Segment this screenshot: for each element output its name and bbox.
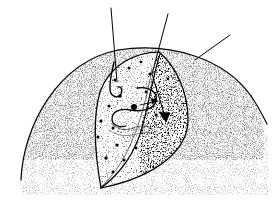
dark-spot	[131, 104, 137, 110]
dark-spot	[104, 156, 107, 159]
dark-spot	[123, 159, 126, 162]
dark-spot	[99, 119, 102, 122]
dark-spot	[128, 67, 131, 70]
dark-spot	[167, 78, 170, 81]
dark-spot	[112, 127, 115, 130]
figure-container: Stippled pen-and-ink anatomical illustra…	[0, 0, 276, 210]
dark-spot	[118, 94, 122, 98]
anatomical-illustration: Stippled pen-and-ink anatomical illustra…	[0, 0, 276, 210]
dark-spot	[135, 147, 138, 150]
dark-spot	[155, 114, 158, 117]
dark-spot	[140, 61, 143, 64]
dark-spot	[145, 91, 148, 94]
dark-spot	[115, 143, 118, 146]
dark-spot	[107, 104, 110, 107]
dark-spot	[112, 171, 115, 174]
dark-spot	[114, 79, 117, 82]
dark-spot	[97, 136, 100, 139]
dark-spot	[148, 72, 151, 75]
